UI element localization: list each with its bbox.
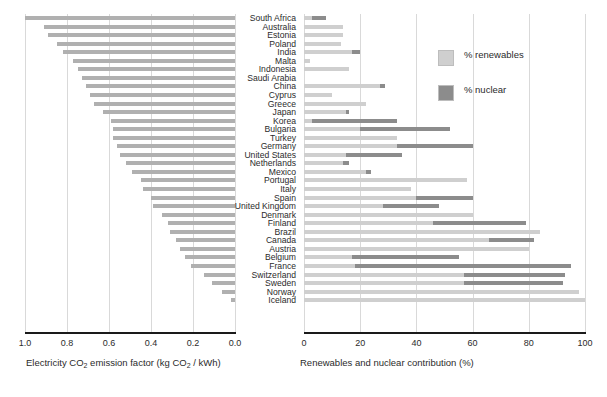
renewables-segment: [304, 298, 585, 302]
renewables-segment: [304, 25, 343, 29]
legend-label: % nuclear: [464, 84, 506, 95]
x-tick-label: 100: [565, 338, 605, 348]
nuclear-segment: [433, 221, 526, 225]
renewables-segment: [304, 50, 352, 54]
renewables-nuclear-x-axis-label: Renewables and nuclear contribution (%): [300, 357, 474, 368]
nuclear-segment: [464, 273, 565, 277]
renewables-segment: [304, 153, 346, 157]
renewables-segment: [304, 230, 540, 234]
renewables-segment: [304, 204, 383, 208]
renewables-segment: [304, 273, 464, 277]
nuclear-segment: [360, 127, 450, 131]
renewables-segment: [304, 33, 343, 37]
renewables-segment: [304, 187, 411, 191]
renewables-segment: [304, 102, 366, 106]
nuclear-segment: [346, 153, 402, 157]
x-tick-label: 40: [396, 338, 436, 348]
renewables-segment: [304, 178, 467, 182]
renewables-segment: [304, 238, 489, 242]
nuclear-segment: [383, 204, 439, 208]
renewables-segment: [304, 255, 352, 259]
renewables-segment: [304, 93, 332, 97]
nuclear-segment: [312, 16, 326, 20]
x-tick-label: 80: [509, 338, 549, 348]
renewables-segment: [304, 16, 312, 20]
nuclear-segment: [489, 238, 534, 242]
nuclear-segment: [352, 50, 360, 54]
renewables-segment: [304, 264, 355, 268]
nuclear-segment: [343, 161, 349, 165]
renewables-segment: [304, 281, 464, 285]
renewables-segment: [304, 42, 341, 46]
renewables-segment: [304, 127, 360, 131]
renewables-segment: [304, 119, 312, 123]
renewables-segment: [304, 213, 473, 217]
gridline: [585, 14, 586, 332]
nuclear-segment: [312, 119, 396, 123]
renewables-nuclear-x-axis: [304, 332, 586, 334]
nuclear-segment: [416, 196, 472, 200]
renewables-segment: [304, 170, 366, 174]
nuclear-segment: [380, 84, 386, 88]
nuclear-segment: [352, 255, 459, 259]
renewables-segment: [304, 196, 416, 200]
legend-swatch-renewables: [438, 50, 454, 66]
nuclear-segment: [346, 110, 349, 114]
renewables-segment: [304, 247, 529, 251]
renewables-segment: [304, 67, 349, 71]
nuclear-segment: [397, 144, 473, 148]
renewables-segment: [304, 136, 397, 140]
x-tick-label: 60: [453, 338, 493, 348]
renewables-segment: [304, 144, 397, 148]
x-tick-label: 20: [340, 338, 380, 348]
renewables-segment: [304, 84, 380, 88]
renewables-segment: [304, 290, 579, 294]
nuclear-segment: [464, 281, 562, 285]
dual-bar-chart-figure: 1.00.80.60.40.20.0 Electricity CO2 emiss…: [0, 0, 607, 397]
renewables-segment: [304, 59, 310, 63]
x-tick-label: 0: [284, 338, 324, 348]
nuclear-segment: [366, 170, 372, 174]
renewables-segment: [304, 161, 343, 165]
nuclear-segment: [355, 264, 571, 268]
legend-swatch-nuclear: [438, 85, 454, 101]
legend-label: % renewables: [464, 49, 524, 60]
renewables-segment: [304, 110, 346, 114]
renewables-segment: [304, 221, 433, 225]
